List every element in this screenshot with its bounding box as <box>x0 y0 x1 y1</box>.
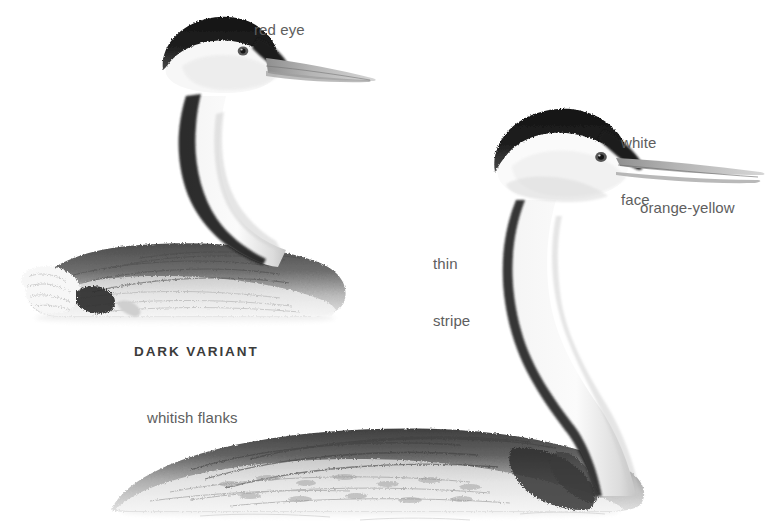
label-thin-stripe-line2: stripe <box>433 311 470 330</box>
caption-dark-variant: DARK VARIANT <box>134 342 259 361</box>
label-red-eye: red eye <box>254 20 305 39</box>
label-whitish-flanks: whitish flanks <box>147 408 238 427</box>
dark-variant-grebe-figure <box>22 17 376 325</box>
label-white-face-line1: white <box>621 133 657 152</box>
grebe-illustration <box>0 0 776 530</box>
label-thin-stripe-line1: thin <box>433 254 470 273</box>
label-orange-yellow: orange-yellow <box>640 198 735 217</box>
illustration-plate: red eye white face orange-yellow thin st… <box>0 0 776 530</box>
label-white-face: white face <box>621 95 657 247</box>
label-thin-stripe: thin stripe <box>433 216 470 368</box>
